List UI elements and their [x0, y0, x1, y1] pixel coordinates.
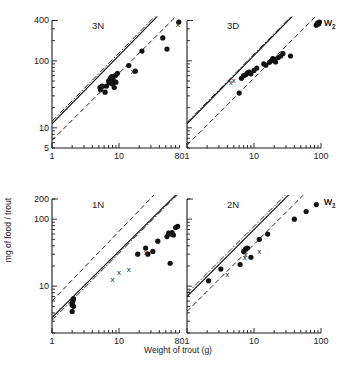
data-point	[135, 252, 140, 257]
panel-1n: 11080101002001Nxxxx	[34, 168, 185, 346]
line-label-w1: W1	[324, 197, 336, 209]
cross-marker: x	[244, 250, 248, 259]
data-point	[317, 19, 322, 24]
y-tick-label: 400	[34, 15, 49, 25]
data-point	[155, 239, 160, 244]
data-point	[113, 80, 118, 85]
data-point	[280, 51, 285, 56]
panel-title: 3D	[227, 20, 239, 31]
line-w2	[187, 0, 321, 123]
data-point	[175, 224, 180, 229]
cross-marker: x	[257, 247, 261, 256]
data-point	[254, 65, 259, 70]
data-point	[288, 53, 293, 58]
line-label-w1: W1	[324, 18, 336, 30]
regression-lines	[52, 168, 180, 320]
line-label-text: W	[324, 18, 332, 28]
x-tick-label: 80	[174, 151, 184, 161]
x-axis-title: Weight of trout (g)	[144, 345, 212, 355]
y-tick-label: 10	[39, 281, 49, 291]
cross-marker: x	[144, 248, 148, 257]
cross-marker: x	[176, 20, 180, 29]
y-axis-title: mg of food / trout	[3, 197, 13, 262]
x-tick-label: 10	[114, 151, 124, 161]
panel-3d: 1101003DW2W1xx	[184, 0, 336, 161]
x-tick-label: 10	[249, 151, 259, 161]
line-w1	[52, 168, 180, 301]
data-point	[171, 232, 176, 237]
line-fit	[187, 163, 321, 297]
panel-title: 2N	[227, 199, 239, 210]
x-tick-label: 100	[313, 336, 328, 346]
y-tick-label: 10	[39, 123, 49, 133]
data-point	[218, 266, 223, 271]
regression-lines	[187, 159, 321, 311]
data-point	[248, 255, 253, 260]
data-point	[115, 71, 120, 76]
line-label-subscript: 1	[332, 202, 336, 209]
y-tick-label: 5	[44, 143, 49, 153]
regression-lines	[52, 0, 180, 140]
data-point	[160, 35, 165, 40]
panel-2n: 1101002NW2W1xxxx	[184, 159, 336, 346]
data-point	[206, 278, 211, 283]
cross-marker: x	[111, 275, 115, 284]
y-tick-label: 100	[34, 214, 49, 224]
data-point	[257, 237, 262, 242]
panel-3n: 110805101004003Nxx	[34, 0, 185, 161]
x-tick-label: 100	[313, 151, 328, 161]
data-point	[150, 249, 155, 254]
x-tick-label: 10	[114, 336, 124, 346]
data-point	[112, 85, 117, 90]
data-point	[265, 231, 270, 236]
data-point	[304, 209, 309, 214]
data-point	[168, 261, 173, 266]
cross-marker: x	[117, 268, 121, 277]
cross-marker: x	[225, 270, 229, 279]
panel-title: 3N	[92, 20, 104, 31]
data-point	[164, 46, 169, 51]
data-point	[71, 296, 76, 301]
line-w1	[187, 11, 321, 145]
y-tick-label: 200	[34, 194, 49, 204]
data-point	[273, 59, 278, 64]
line-w2	[52, 0, 180, 121]
data-point	[139, 48, 144, 53]
data-point	[71, 304, 76, 309]
cross-marker: x	[127, 265, 131, 274]
data-point	[314, 202, 319, 207]
data-point	[102, 90, 107, 95]
x-tick-label: 1	[49, 151, 54, 161]
panel-title: 1N	[92, 199, 104, 210]
line-label-subscript: 1	[332, 23, 336, 30]
line-w1	[187, 177, 321, 311]
cross-marker: x	[131, 67, 135, 76]
data-point	[237, 262, 242, 267]
y-tick-label: 100	[34, 56, 49, 66]
chart-figure: 110805101004003Nxx1101003DW2W1xx11080101…	[0, 0, 343, 369]
data-point	[237, 90, 242, 95]
data-point	[292, 217, 297, 222]
data-point	[70, 309, 75, 314]
line-fit	[52, 0, 180, 124]
line-fit	[187, 0, 321, 124]
line-w2	[187, 159, 321, 293]
line-label-text: W	[324, 197, 332, 207]
cross-marker: x	[232, 76, 236, 85]
x-tick-label: 1	[49, 336, 54, 346]
x-tick-label: 1	[184, 151, 189, 161]
x-tick-label: 10	[249, 336, 259, 346]
